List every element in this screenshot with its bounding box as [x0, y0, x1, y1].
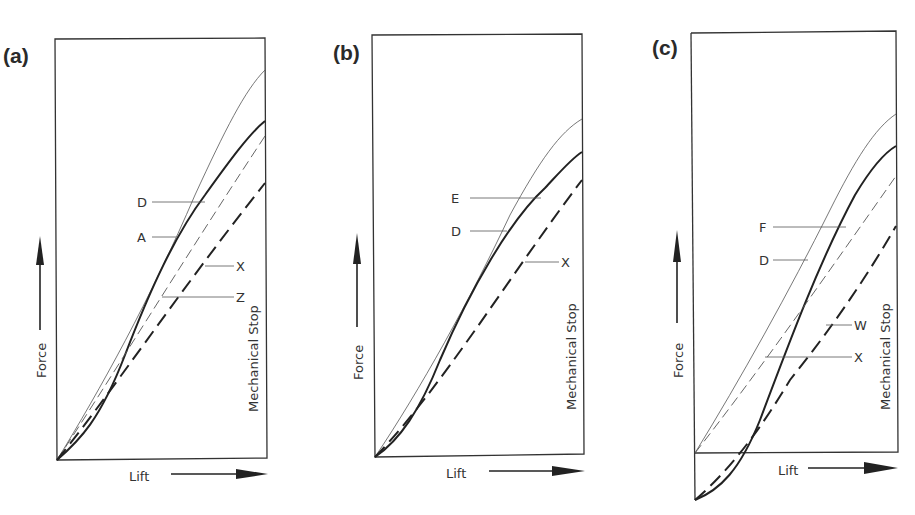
- curve-f-thin: [695, 114, 896, 453]
- panel-c-frame: [691, 31, 898, 453]
- figure-canvas: (a) D A X Z Force Lift Mechanical Stop (…: [0, 0, 915, 515]
- curve-label-a-X: X: [236, 259, 245, 274]
- curve-label-a-A: A: [137, 230, 146, 245]
- panel-b-frame: [372, 34, 584, 457]
- curve-label-c-X: X: [854, 350, 863, 365]
- force-arrow-icon: [673, 230, 681, 323]
- panel-a-frame: [55, 38, 267, 460]
- panel-c: (c) F D W X Force Lift Mechanical Stop: [652, 31, 898, 500]
- panel-a: (a) D A X Z Force Lift Mechanical Stop: [3, 38, 268, 484]
- curve-a-thin: [57, 70, 265, 460]
- stop-label-c: Mechanical Stop: [878, 303, 893, 410]
- stop-label-b: Mechanical Stop: [564, 303, 579, 410]
- curve-z-dashed-thin: [57, 136, 265, 460]
- lift-arrow-icon: [489, 466, 585, 476]
- curve-d-thick: [57, 121, 265, 460]
- curve-w-dashed-thin: [695, 176, 896, 453]
- stop-label-a: Mechanical Stop: [246, 305, 261, 412]
- lift-arrow-icon: [808, 462, 898, 474]
- panel-c-label: (c): [652, 36, 678, 59]
- curve-x-dashed-thick: [57, 183, 265, 460]
- panel-c-left-axis: [691, 33, 695, 500]
- y-axis-label-a: Force: [34, 343, 49, 378]
- x-axis-label-c: Lift: [778, 463, 798, 478]
- lift-arrow-icon: [171, 469, 268, 479]
- curve-label-b-D: D: [451, 224, 461, 239]
- x-axis-label-b: Lift: [446, 466, 466, 481]
- y-axis-label-c: Force: [671, 343, 686, 378]
- panel-a-label: (a): [3, 44, 29, 67]
- panel-b-label: (b): [333, 41, 360, 64]
- curve-label-c-D: D: [759, 253, 769, 268]
- curve-label-c-W: W: [854, 318, 867, 333]
- panel-b: (b) E D X Force Lift Mechanical Stop: [333, 34, 585, 481]
- force-arrow-icon: [36, 236, 44, 330]
- curve-x-dashed-thick: [375, 180, 582, 457]
- force-arrow-icon: [353, 233, 361, 327]
- curve-x-dashed-thick: [695, 226, 896, 500]
- curve-label-c-F: F: [759, 220, 766, 235]
- curve-label-b-E: E: [451, 191, 459, 206]
- x-axis-label-a: Lift: [129, 469, 149, 484]
- curve-e-thin: [375, 119, 582, 457]
- curve-label-b-X: X: [561, 255, 570, 270]
- y-axis-label-b: Force: [351, 345, 366, 380]
- curve-label-a-D: D: [137, 195, 147, 210]
- curve-label-a-Z: Z: [236, 290, 245, 305]
